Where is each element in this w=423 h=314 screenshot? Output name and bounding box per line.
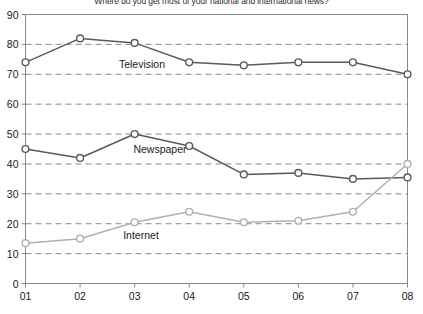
y-tick-label-80: 80 [7,38,19,50]
marker-newspaper-06 [295,170,302,177]
plot-border [26,15,408,284]
marker-newspaper-01 [22,146,29,153]
x-tick-label-07: 07 [347,290,359,302]
marker-internet-05 [240,219,247,226]
marker-newspaper-03 [131,131,138,138]
series-line-television [26,38,408,74]
x-axis-ticks: 0102030405060708 [20,284,414,302]
marker-television-07 [350,59,357,66]
x-tick-label-02: 02 [74,290,86,302]
chart-container: Where do you get most of your national a… [0,0,423,314]
series-line-internet [26,164,408,243]
y-tick-label-90: 90 [7,9,19,21]
marker-internet-06 [295,217,302,224]
y-tick-label-10: 10 [7,248,19,260]
marker-television-02 [77,35,84,42]
series-label-television: Television [119,58,165,70]
series-label-internet: Internet [123,229,159,241]
y-tick-label-50: 50 [7,128,19,140]
marker-internet-07 [350,208,357,215]
plot-frame [26,15,408,284]
marker-internet-01 [22,240,29,247]
series-label-newspaper: Newspaper [133,143,187,155]
marker-television-05 [240,62,247,69]
gridlines-group [26,44,408,253]
x-tick-label-03: 03 [129,290,141,302]
marker-internet-08 [404,161,411,168]
line-chart-plot: 0102030405060708090 0102030405060708 Tel… [0,0,423,314]
y-tick-label-70: 70 [7,68,19,80]
marker-newspaper-04 [186,143,193,150]
marker-internet-03 [131,219,138,226]
x-tick-label-01: 01 [20,290,32,302]
marker-television-06 [295,59,302,66]
x-tick-label-04: 04 [183,290,195,302]
marker-television-08 [404,71,411,78]
y-tick-label-0: 0 [13,278,19,290]
x-tick-label-05: 05 [238,290,250,302]
marker-newspaper-08 [404,174,411,181]
y-tick-label-40: 40 [7,158,19,170]
marker-newspaper-07 [350,175,357,182]
y-tick-label-60: 60 [7,98,19,110]
y-tick-label-30: 30 [7,188,19,200]
marker-television-01 [22,59,29,66]
x-tick-label-08: 08 [402,290,414,302]
marker-newspaper-02 [77,155,84,162]
marker-television-03 [131,39,138,46]
y-tick-label-20: 20 [7,218,19,230]
marker-television-04 [186,59,193,66]
marker-internet-04 [186,208,193,215]
data-series-group [22,35,411,247]
marker-internet-02 [77,235,84,242]
x-tick-label-06: 06 [293,290,305,302]
marker-newspaper-05 [240,171,247,178]
